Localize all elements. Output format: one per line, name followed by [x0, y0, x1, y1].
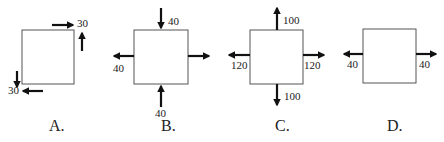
force-label-a-bottom-left: 30 [8, 84, 20, 96]
force-label-d-right: 40 [419, 58, 431, 70]
block-c [250, 30, 303, 84]
force-label-d-left: 40 [347, 58, 359, 70]
block-b [134, 30, 188, 84]
option-label-a: A. [49, 117, 65, 134]
force-label-b-top: 40 [168, 15, 180, 27]
force-label-b-left: 40 [113, 62, 125, 74]
force-diagrams: 30 30 A. 40 40 40 B. 100 120 120 100 C. … [0, 0, 444, 142]
option-d-diagram: 40 40 D. [344, 29, 436, 134]
option-b-diagram: 40 40 40 B. [113, 8, 209, 134]
force-label-a-top-right: 30 [77, 17, 89, 29]
option-c-diagram: 100 120 120 100 C. [229, 8, 324, 134]
force-label-c-bottom: 100 [284, 90, 301, 102]
force-label-c-left: 120 [231, 59, 248, 71]
force-label-c-right: 120 [304, 59, 321, 71]
option-a-diagram: 30 30 A. [8, 17, 89, 134]
option-label-b: B. [161, 117, 176, 134]
option-label-d: D. [387, 117, 403, 134]
force-label-c-top: 100 [283, 14, 300, 26]
block-a [22, 30, 74, 84]
block-d [363, 29, 416, 83]
option-label-c: C. [275, 117, 290, 134]
